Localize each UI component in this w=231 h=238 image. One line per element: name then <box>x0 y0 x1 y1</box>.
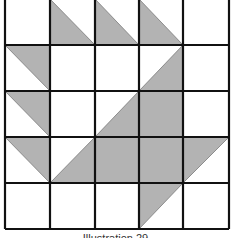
figure-caption: Illustration 29 <box>0 231 231 238</box>
shaded-tri-bl-r0c1 <box>50 0 95 45</box>
quilt-block-diagram <box>0 0 231 231</box>
shaded-tri-bl-r0c3 <box>139 0 183 45</box>
shaded-tri-tr-r3c0 <box>5 137 50 183</box>
shaded-tri-br-r1c3 <box>139 45 183 91</box>
shaded-tri-br-r2c2 <box>95 91 139 137</box>
shaded-tri-tr-r2c0 <box>5 91 50 137</box>
shaded-full-r3c3 <box>139 137 183 183</box>
shaded-full-r3c2 <box>95 137 139 183</box>
shaded-tri-tl-r3c4 <box>183 137 229 183</box>
shaded-tri-tr-r1c0 <box>5 45 50 91</box>
shaded-tri-tl-r4c3 <box>139 183 183 229</box>
shaded-full-r2c3 <box>139 91 183 137</box>
shaded-tri-bl-r0c2 <box>95 0 139 45</box>
shaded-tri-br-r3c1 <box>50 137 95 183</box>
